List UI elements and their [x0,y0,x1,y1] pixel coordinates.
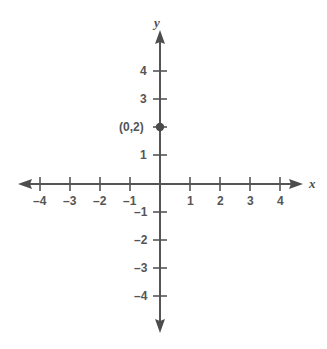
x-tick-label-neg2: –2 [93,195,106,207]
coordinate-plane-graph: y x –4 –3 –2 –1 1 2 3 4 4 3 1 –1 –2 –3 –… [0,0,327,349]
x-axis-left-arrow-icon [18,179,32,189]
y-tick-label-pos1: 1 [140,149,147,161]
y-tick-label-pos3: 3 [140,93,147,105]
x-tick-label-pos3: 3 [247,195,254,207]
data-point-annotation: (0,2) [119,121,144,133]
data-point-0-2[interactable] [156,123,164,131]
y-axis-label: y [154,16,160,29]
y-tick-label-neg2: –2 [134,234,147,246]
y-axis-bottom-arrow-icon [155,319,165,333]
x-tick-label-pos1: 1 [187,195,194,207]
y-tick-label-neg3: –3 [134,262,147,274]
x-axis-label: x [309,177,316,190]
x-tick-label-neg3: –3 [63,195,76,207]
y-tick-label-pos4: 4 [140,65,147,77]
x-tick-label-pos2: 2 [217,195,224,207]
x-tick-label-neg4: –4 [33,195,46,207]
y-axis-top-arrow-icon [155,30,165,44]
x-axis-right-arrow-icon [289,179,303,189]
graph-canvas [0,0,327,349]
y-tick-label-neg1: –1 [134,206,147,218]
x-tick-label-pos4: 4 [277,195,284,207]
y-tick-label-neg4: –4 [134,290,147,302]
